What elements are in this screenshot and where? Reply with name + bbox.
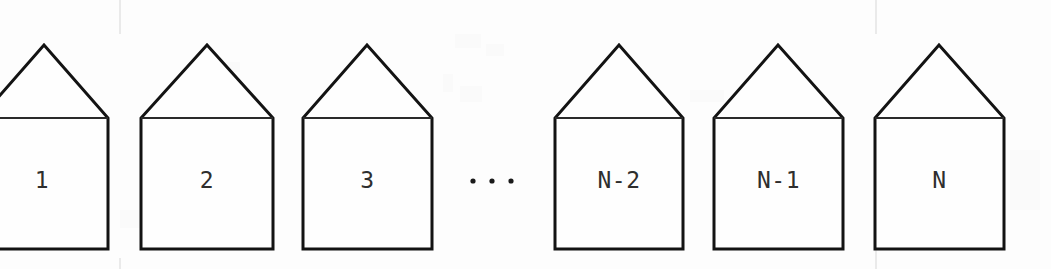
- house-label: 2: [200, 167, 214, 193]
- house-label: N-1: [757, 167, 800, 193]
- house-label: N: [932, 167, 946, 193]
- ellipsis-dot: [470, 178, 475, 183]
- ellipsis-dot: [489, 178, 494, 183]
- figure-canvas: 123N-2N-1N: [0, 0, 1051, 269]
- houses-diagram: 123N-2N-1N: [0, 0, 1051, 269]
- house-label: 3: [360, 167, 374, 193]
- house-label: N-2: [597, 167, 640, 193]
- ellipsis-dot: [508, 178, 513, 183]
- house-label: 1: [35, 167, 49, 193]
